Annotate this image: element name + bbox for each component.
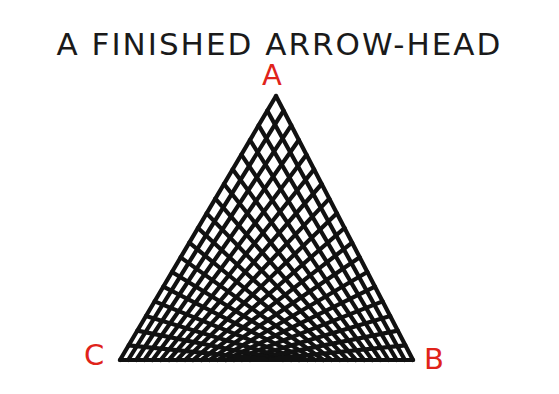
- arrowhead-lattice: [0, 0, 559, 394]
